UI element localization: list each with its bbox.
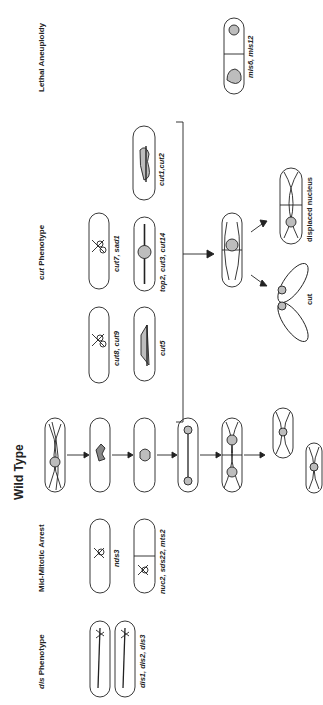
label-nuc2: nuc2, sds22, mts2 [158,529,167,594]
cut7-cell [89,213,109,289]
top2-cell [134,217,155,291]
label-top2: top2, cut3, cut14 [158,233,167,292]
label-nds3: nds3 [112,549,121,567]
cut5-cell [134,307,155,381]
label-cut7: cut7, sad1 [112,235,121,272]
label-cut5: cut5 [158,341,167,356]
header-dis-phenotype: dis Phenotype [37,634,46,689]
cut-event-cell [222,213,242,287]
dis-cells [90,621,135,697]
label-dis: dis1, dis2, dis3 [138,635,147,688]
cut1-cell [133,126,155,200]
header-wild-type: Wild Type [12,444,26,500]
displaced-nucleus-cell [280,168,302,244]
cut8-cell [89,307,109,383]
header-cut-phenotype: cut Phenotype [37,225,46,280]
label-displaced-nucleus: displaced nucleus [305,177,314,242]
label-cut1: cut1,cut2 [157,153,166,186]
bracket [176,122,183,422]
mid-mitotic-cells [90,519,155,593]
label-cut: cut [305,294,314,305]
wild-type-cells [45,408,322,493]
label-cut8: cut8, cut9 [112,331,121,366]
header-lethal-aneuploidy: Lethal Aneuploidy [37,23,46,92]
header-mid-mitotic-arrest: Mid-Mitotic Arrest [37,524,46,592]
label-mis: mis6, mis12 [246,35,255,78]
mis-cell [224,18,244,94]
